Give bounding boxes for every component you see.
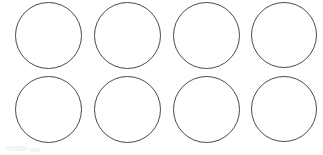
circle-r1c1[interactable]	[15, 2, 82, 69]
circle-r2c4[interactable]	[251, 76, 317, 142]
circle-r2c2[interactable]	[94, 76, 161, 143]
circle-r1c3[interactable]	[173, 2, 240, 69]
smudge-lower-left-2	[30, 148, 40, 152]
page-canvas	[0, 0, 323, 155]
circle-r1c4[interactable]	[251, 2, 317, 68]
circle-r2c3[interactable]	[173, 76, 240, 143]
smudge-lower-left	[6, 146, 28, 151]
circle-r2c1[interactable]	[15, 76, 82, 143]
circle-r1c2[interactable]	[94, 2, 161, 69]
